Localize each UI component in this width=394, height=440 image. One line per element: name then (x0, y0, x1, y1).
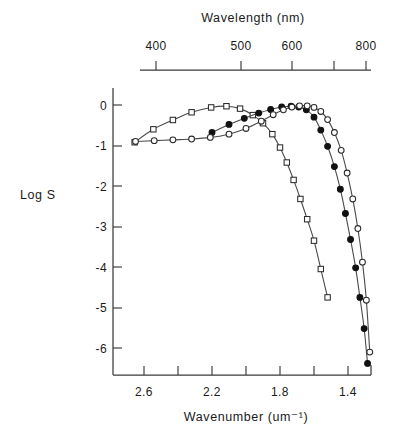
data-point (241, 115, 247, 121)
data-point (343, 211, 349, 217)
data-point (318, 127, 324, 133)
data-point (357, 294, 363, 300)
data-point (311, 238, 316, 243)
data-point (258, 118, 264, 124)
data-point (170, 137, 176, 143)
data-point (325, 117, 331, 123)
y-axis-title: Log S (20, 188, 56, 202)
data-point (208, 105, 213, 110)
data-point (289, 104, 295, 110)
data-point (344, 170, 350, 176)
data-point (256, 110, 262, 116)
data-point (224, 104, 229, 109)
data-point (237, 106, 242, 111)
data-point (318, 109, 324, 115)
spectrum-chart: Wavelength (nm) 400 500 600 800 Log S 0 … (0, 0, 394, 440)
y-tick-label-m3: -3 (96, 220, 107, 234)
y-tick-label-m6: -6 (96, 342, 107, 356)
curve-open-circles (136, 106, 370, 352)
top-tick-label-400: 400 (145, 39, 166, 53)
y-tick-label-m4: -4 (96, 261, 107, 275)
x-tick-label-2-2: 2.2 (203, 385, 221, 399)
data-point (151, 138, 157, 144)
data-point (348, 237, 354, 243)
data-point (337, 186, 343, 192)
data-point (284, 160, 289, 165)
x-tick-label-1-8: 1.8 (271, 385, 289, 399)
x-axis-title: Wavenumber (um⁻¹) (184, 410, 308, 424)
y-axis-tick-labels: 0 -1 -2 -3 -4 -5 -6 (96, 99, 107, 356)
data-point (365, 360, 371, 366)
series-open-circles (133, 103, 373, 355)
x-axis-tick-labels: 2.6 2.2 1.8 1.4 (135, 385, 357, 399)
top-tick-label-600: 600 (281, 39, 302, 53)
data-point (305, 217, 310, 222)
data-point (338, 147, 344, 153)
data-point (226, 131, 232, 137)
top-axis-line-group (140, 61, 371, 70)
series-filled-circles (209, 103, 370, 366)
data-point (311, 105, 317, 111)
data-point (277, 145, 282, 150)
x-axis-ticks (144, 366, 348, 375)
x-tick-label-1-4: 1.4 (339, 385, 357, 399)
data-point (311, 114, 317, 120)
data-point (325, 295, 330, 300)
data-point (355, 226, 361, 232)
top-axis-title: Wavelength (nm) (201, 11, 305, 25)
x-tick-label-2-6: 2.6 (135, 385, 153, 399)
data-point (363, 297, 369, 303)
curve-filled-circles (212, 106, 368, 363)
data-series-layer (132, 103, 373, 366)
data-point (270, 131, 275, 136)
data-point (133, 139, 139, 145)
y-tick-label-m1: -1 (96, 139, 107, 153)
data-point (151, 127, 156, 132)
data-point (325, 143, 331, 149)
y-tick-label-m2: -2 (96, 180, 107, 194)
data-point (298, 196, 303, 201)
data-point (350, 196, 356, 202)
data-point (226, 122, 232, 128)
data-point (360, 259, 366, 265)
data-point (270, 112, 276, 118)
data-point (243, 126, 249, 132)
data-point (332, 164, 338, 170)
y-tick-label-0: 0 (100, 99, 107, 113)
data-point (297, 103, 303, 109)
y-axis-ticks (113, 105, 122, 348)
data-point (361, 326, 367, 332)
data-point (291, 177, 296, 182)
y-tick-label-m5: -5 (96, 301, 107, 315)
data-point (170, 117, 175, 122)
data-point (353, 265, 359, 271)
top-tick-label-800: 800 (355, 39, 376, 53)
data-point (189, 136, 195, 142)
top-axis-tick-labels: 400 500 600 800 (145, 39, 376, 53)
data-point (281, 107, 287, 113)
data-point (332, 130, 338, 136)
data-point (318, 266, 323, 271)
data-point (207, 135, 213, 141)
data-point (189, 110, 194, 115)
top-tick-label-500: 500 (230, 39, 251, 53)
data-point (367, 349, 373, 355)
data-point (304, 103, 310, 109)
